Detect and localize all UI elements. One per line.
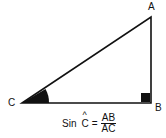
angle-c-marker — [22, 89, 49, 103]
angle-c-hat: ^ C — [81, 118, 88, 129]
vertex-c-label: C — [8, 98, 15, 108]
sin-function: Sin — [62, 118, 76, 129]
fraction: AB AC — [101, 113, 117, 134]
equals-sign: = — [92, 118, 98, 129]
right-angle-marker — [141, 93, 150, 102]
hat-symbol: ^ — [82, 110, 86, 120]
triangle-abc — [22, 17, 151, 103]
vertex-a-label: A — [148, 2, 155, 12]
vertex-b-label: B — [155, 103, 162, 113]
sine-formula: Sin ^ C = AB AC — [62, 113, 116, 134]
denominator: AC — [101, 124, 117, 134]
